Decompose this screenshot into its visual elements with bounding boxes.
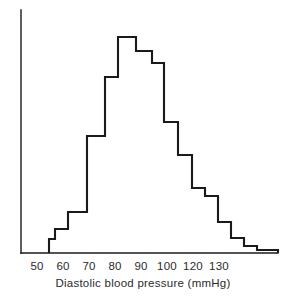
x-tick-label: 50: [30, 261, 43, 273]
x-tick-label: 60: [56, 261, 69, 273]
histogram-step-outline: [49, 37, 278, 253]
histogram-figure: 5060708090100120130 Diastolic blood pres…: [0, 0, 286, 301]
x-tick-label: 120: [183, 261, 203, 273]
x-tick-label: 70: [82, 261, 95, 273]
histogram-series-group: [49, 37, 278, 253]
x-tick-label: 130: [209, 261, 229, 273]
x-axis-title: Diastolic blood pressure (mmHg): [0, 278, 286, 290]
x-tick-label: 80: [108, 261, 121, 273]
histogram-plot-area: [0, 0, 286, 301]
axes-group: [21, 10, 278, 253]
x-tick-label: 90: [134, 261, 147, 273]
x-tick-label: 100: [157, 261, 177, 273]
